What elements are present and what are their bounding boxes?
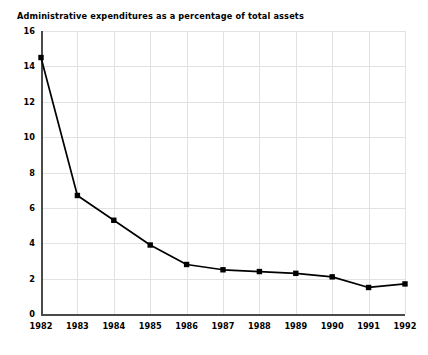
data-point-1982 [38,55,43,60]
data-point-1986 [184,262,189,267]
data-point-1992 [402,281,407,286]
data-point-1987 [220,267,225,272]
series-line [41,58,405,288]
data-point-1990 [330,274,335,279]
data-series-layer [0,0,428,355]
data-point-1989 [293,271,298,276]
data-point-1985 [148,242,153,247]
data-point-1984 [111,218,116,223]
data-point-1991 [366,285,371,290]
data-point-1988 [257,269,262,274]
data-point-1983 [75,193,80,198]
chart-container: Administrative expenditures as a percent… [0,0,428,355]
data-markers [38,55,407,290]
